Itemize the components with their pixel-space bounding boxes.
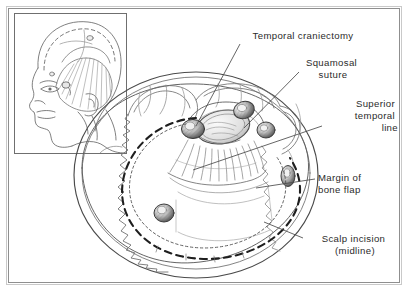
- label-scalp-incision-line-2: (midline): [335, 245, 375, 256]
- label-squamosal-suture-line-1: Squamosal: [306, 57, 357, 68]
- inset-pupil: [48, 87, 51, 90]
- label-superior-temporal-line-line-2: temporal: [355, 110, 395, 121]
- label-temporal-craniectomy-line-1: Temporal craniectomy: [253, 30, 354, 41]
- label-scalp-incision-line-1: Scalp incision: [322, 233, 386, 244]
- burr-hole-posterior: [257, 122, 275, 138]
- label-squamosal-suture-line-2: suture: [319, 69, 348, 80]
- label-margin-of-bone-flap: Margin of bone flap: [318, 172, 364, 195]
- label-margin-of-bone-flap-line-1: Margin of: [318, 172, 361, 183]
- label-margin-of-bone-flap-line-2: bone flap: [318, 184, 361, 195]
- inset-burr-hole-2: [50, 72, 55, 76]
- inset-burr-hole-3: [87, 36, 93, 41]
- label-superior-temporal-line-line-3: line: [382, 122, 398, 133]
- figure-page: Temporal craniectomy Squamosal suture Su…: [0, 0, 411, 297]
- label-superior-temporal-line-line-1: Superior: [356, 98, 396, 109]
- label-temporal-craniectomy: Temporal craniectomy: [253, 30, 354, 41]
- inset-burr-hole-1: [62, 82, 70, 88]
- burr-hole-lower-left: [154, 204, 174, 222]
- lateral-head-orientation-inset: [15, 14, 127, 154]
- anatomical-figure: Temporal craniectomy Squamosal suture Su…: [0, 0, 411, 297]
- burr-hole-anterior-temporal: [182, 120, 205, 139]
